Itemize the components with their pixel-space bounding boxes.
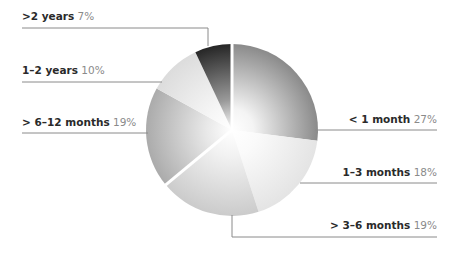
label-name: > 6–12 months: [22, 116, 110, 128]
label-percent: 19%: [414, 219, 437, 231]
label-percent: 19%: [113, 116, 136, 128]
label-name: >2 years: [22, 10, 74, 22]
leader-line-gt2-years: [22, 28, 208, 46]
pie-slice: [232, 44, 318, 141]
label-percent: 18%: [414, 166, 437, 178]
label-name: 1–2 years: [22, 64, 78, 76]
label-name: > 3–6 months: [330, 219, 410, 231]
label-1-2-years: 1–2 years 10%: [22, 64, 105, 76]
label-percent: 10%: [81, 64, 104, 76]
label-6-12-months: > 6–12 months 19%: [22, 116, 136, 128]
label-3-6-months: > 3–6 months 19%: [330, 219, 437, 231]
label-1-3-months: 1–3 months 18%: [342, 166, 437, 178]
label-percent: 7%: [78, 10, 95, 22]
label-lt1-month: < 1 month 27%: [349, 113, 437, 125]
label-gt2-years: >2 years 7%: [22, 10, 94, 22]
label-name: 1–3 months: [342, 166, 410, 178]
label-percent: 27%: [414, 113, 437, 125]
pie-slices: [146, 42, 318, 216]
label-name: < 1 month: [349, 113, 411, 125]
